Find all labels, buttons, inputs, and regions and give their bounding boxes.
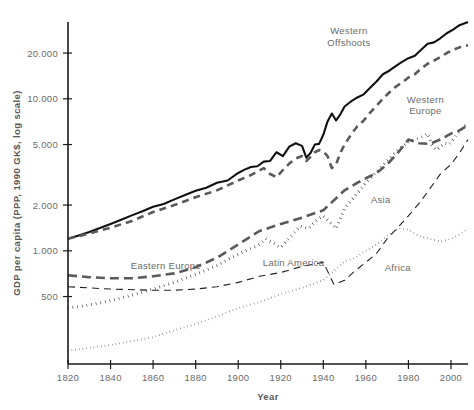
series-label-western-offshoots: Western: [330, 25, 367, 36]
x-tick-label: 1900: [227, 372, 249, 383]
series-layer: [68, 22, 468, 351]
x-tick-label: 1820: [57, 372, 79, 383]
y-tick-label: 500: [41, 291, 58, 302]
x-tick-label: 1980: [397, 372, 419, 383]
series-label-africa: Africa: [385, 262, 411, 273]
x-tick-label: 1940: [312, 372, 334, 383]
chart-canvas: 5001.0002.0005.00010.00020.0001820184018…: [0, 0, 474, 410]
x-axis-title: Year: [257, 391, 279, 402]
series-label-asia: Asia: [371, 194, 391, 205]
y-axis-title: GDP per capita (PPP, 1990 GK$, log scale…: [11, 90, 22, 296]
series-label-western-europe: Western: [407, 94, 444, 105]
series-label-latin-america: Latin America: [263, 257, 325, 268]
series-label-eastern-europe: Eastern Europe: [131, 260, 201, 271]
x-tick-label: 1860: [142, 372, 164, 383]
y-tick-label: 1.000: [33, 245, 58, 256]
y-tick-label: 5.000: [33, 139, 58, 150]
y-tick-label: 10.000: [27, 93, 58, 104]
x-tick-label: 1960: [355, 372, 377, 383]
x-tick-label: 1840: [99, 372, 121, 383]
series-label-western-europe: Europe: [409, 105, 441, 116]
x-tick-label: 2000: [440, 372, 462, 383]
series-line-western-offshoots: [68, 22, 468, 239]
series-label-western-offshoots: Offshoots: [327, 37, 370, 48]
x-tick-label: 1880: [184, 372, 206, 383]
series-line-eastern-europe: [68, 122, 468, 308]
x-tick-label: 1920: [270, 372, 292, 383]
y-tick-label: 2.000: [33, 200, 58, 211]
series-line-latin-america: [68, 125, 468, 278]
y-tick-label: 20.000: [27, 48, 58, 59]
gdp-per-capita-chart: 5001.0002.0005.00010.00020.0001820184018…: [0, 0, 474, 410]
axis-layer: 5001.0002.0005.00010.00020.0001820184018…: [11, 22, 468, 402]
